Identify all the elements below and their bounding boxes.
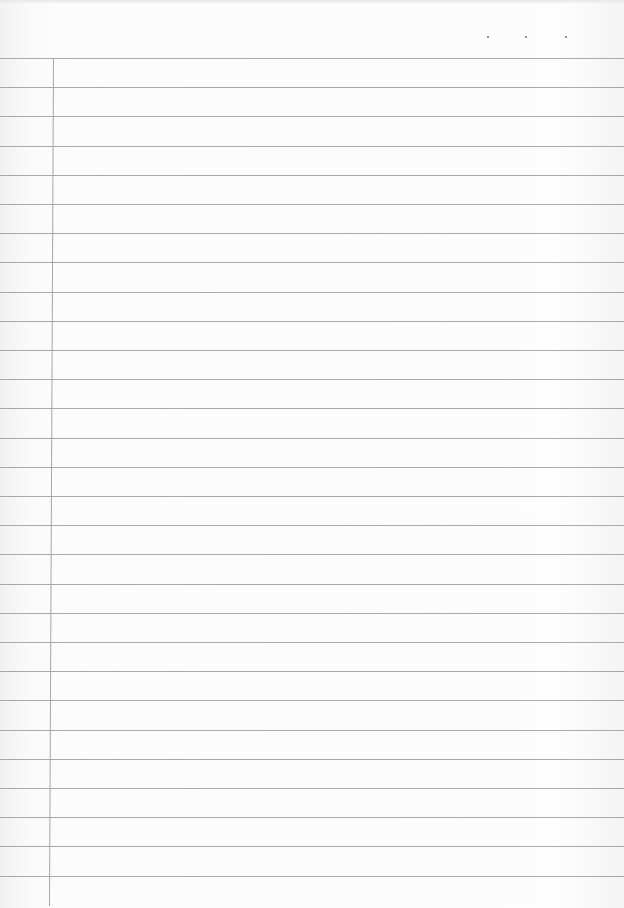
ruled-line: [0, 116, 624, 117]
ruled-line: [0, 788, 624, 789]
ruled-line: [0, 876, 624, 877]
ruled-line: [0, 146, 624, 147]
ruled-line: [0, 87, 624, 88]
ruled-line: [0, 496, 624, 497]
page-top-edge: [0, 0, 624, 4]
ruled-line: [0, 350, 624, 351]
ruled-line: [0, 58, 624, 59]
ruled-line: [0, 700, 624, 701]
date-dot: [487, 36, 489, 38]
ruled-line: [0, 262, 624, 263]
ruled-line: [0, 584, 624, 585]
ruled-line: [0, 613, 624, 614]
margin-line: [49, 58, 54, 906]
ruled-line: [0, 730, 624, 731]
ruled-line: [0, 175, 624, 176]
ruled-line: [0, 642, 624, 643]
ruled-line: [0, 817, 624, 818]
ruled-line: [0, 759, 624, 760]
ruled-line: [0, 525, 624, 526]
date-dot: [525, 36, 527, 38]
ruled-line: [0, 467, 624, 468]
notebook-page: [0, 0, 624, 908]
ruled-line: [0, 233, 624, 234]
ruled-line: [0, 292, 624, 293]
ruled-line: [0, 846, 624, 847]
ruled-line: [0, 554, 624, 555]
ruled-line: [0, 379, 624, 380]
ruled-line: [0, 671, 624, 672]
ruled-line: [0, 408, 624, 409]
date-dot: [565, 36, 567, 38]
ruled-line: [0, 321, 624, 322]
ruled-line: [0, 204, 624, 205]
ruled-line: [0, 438, 624, 439]
